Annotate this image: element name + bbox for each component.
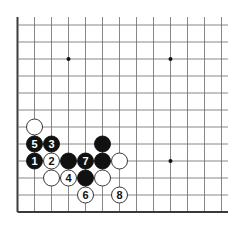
white-stone bbox=[44, 170, 60, 186]
move-number: 5 bbox=[31, 138, 37, 150]
black-stone bbox=[78, 170, 94, 186]
move-number: 4 bbox=[65, 172, 72, 184]
star-point-icon bbox=[169, 57, 173, 61]
black-stone bbox=[95, 136, 111, 152]
white-stone-6: 6 bbox=[78, 187, 94, 203]
move-number: 7 bbox=[82, 155, 88, 167]
star-point-icon bbox=[67, 57, 71, 61]
move-number: 1 bbox=[31, 155, 37, 167]
star-point-icon bbox=[169, 159, 173, 163]
white-stone bbox=[27, 119, 43, 135]
go-board: 53127468 bbox=[0, 0, 243, 228]
black-stone-3: 3 bbox=[44, 136, 60, 152]
white-stone-4: 4 bbox=[61, 170, 77, 186]
white-stone bbox=[112, 153, 128, 169]
black-stone bbox=[61, 153, 77, 169]
white-stone-2: 2 bbox=[44, 153, 60, 169]
move-number: 8 bbox=[116, 189, 122, 201]
black-stone-1: 1 bbox=[27, 153, 43, 169]
move-number: 3 bbox=[48, 138, 54, 150]
black-stone bbox=[95, 153, 111, 169]
move-number: 2 bbox=[48, 155, 54, 167]
move-number: 6 bbox=[82, 189, 88, 201]
white-stone-8: 8 bbox=[112, 187, 128, 203]
white-stone bbox=[95, 170, 111, 186]
black-stone-5: 5 bbox=[27, 136, 43, 152]
black-stone-7: 7 bbox=[78, 153, 94, 169]
